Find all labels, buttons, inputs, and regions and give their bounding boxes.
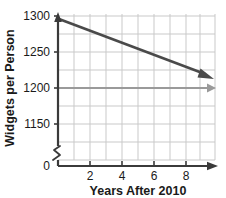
x-tick-label-2: 2 — [87, 169, 94, 183]
x-tick-label-4: 4 — [119, 169, 126, 183]
y-tick-label-1150: 1150 — [24, 117, 50, 131]
widgets-per-person-line-chart: 1300 1250 1200 1150 0 2 4 6 8 Years Afte… — [0, 0, 226, 198]
y-axis-title: Widgets per Person — [3, 29, 17, 146]
y-tick-label-1200: 1200 — [23, 81, 50, 95]
y-tick-label-1300: 1300 — [23, 9, 50, 23]
x-tick-label-8: 8 — [183, 169, 190, 183]
y-tick-label-1250: 1250 — [23, 45, 50, 59]
chart-background — [0, 0, 226, 198]
chart-container: 1300 1250 1200 1150 0 2 4 6 8 Years Afte… — [0, 0, 226, 198]
x-tick-label-6: 6 — [151, 169, 158, 183]
x-axis-title: Years After 2010 — [90, 184, 187, 198]
y-axis-origin-label: 0 — [43, 159, 50, 173]
